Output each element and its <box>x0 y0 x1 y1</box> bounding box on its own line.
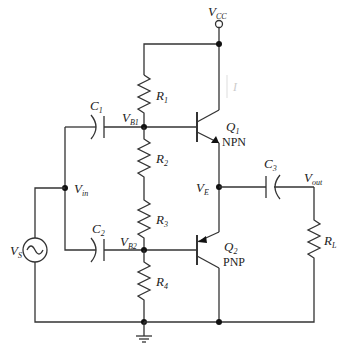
resistor-r2: R2 <box>138 127 168 190</box>
transistor-q2-pnp: Q2 PNP <box>197 232 245 322</box>
svg-text:PNP: PNP <box>223 255 245 269</box>
svg-text:R1: R1 <box>155 88 168 105</box>
resistor-r3: R3 <box>138 190 168 250</box>
svg-text:VS: VS <box>10 243 22 260</box>
vout-label: Vout <box>304 170 323 187</box>
ground-icon <box>136 322 152 342</box>
vcc-node <box>216 41 222 47</box>
svg-text:R4: R4 <box>155 274 168 291</box>
capacitor-c1: C1 <box>65 98 104 139</box>
ac-source-vs: VS <box>10 188 144 322</box>
circuit-diagram: VCC I R1 VB1 C1 Vin VS R2 R <box>0 0 345 352</box>
svg-text:R3: R3 <box>155 212 168 229</box>
vin-label: Vin <box>74 181 88 198</box>
ve-label: VE <box>196 180 209 197</box>
svg-text:NPN: NPN <box>222 135 246 149</box>
ic-annotation: I <box>227 75 238 98</box>
q2-collector-node <box>216 319 222 325</box>
vcc-label: VCC <box>208 4 227 21</box>
transistor-q1-npn: Q1 NPN <box>197 110 246 232</box>
svg-text:RL: RL <box>323 233 337 250</box>
svg-text:R2: R2 <box>155 151 168 168</box>
vb1-label: VB1 <box>122 110 139 127</box>
svg-text:C2: C2 <box>92 221 105 238</box>
resistor-r1: R1 <box>138 75 168 127</box>
vcc-terminal: VCC <box>208 4 227 44</box>
svg-text:C1: C1 <box>90 98 103 115</box>
capacitor-c2: C2 <box>91 221 105 262</box>
svg-text:C3: C3 <box>264 156 277 173</box>
resistor-r4: R4 <box>138 250 168 322</box>
svg-text:I: I <box>232 80 238 94</box>
svg-text:Q1: Q1 <box>226 119 239 136</box>
vb2-label: VB2 <box>120 234 137 251</box>
svg-text:Q2: Q2 <box>224 239 237 256</box>
